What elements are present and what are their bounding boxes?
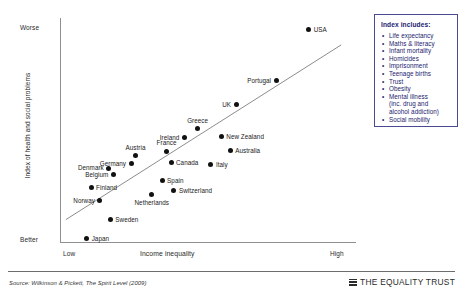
data-point — [306, 27, 311, 32]
x-tick-high: High — [330, 250, 344, 257]
bullet-icon: • — [382, 116, 384, 124]
legend-item: •Infant mortality — [381, 47, 452, 55]
bullet-icon: • — [382, 40, 384, 48]
y-tick-better: Better — [20, 236, 38, 243]
x-axis-title: Income inequality — [140, 250, 195, 257]
data-point — [234, 102, 239, 107]
legend-item: •Imprisonment — [381, 62, 452, 70]
brand-name: THE EQUALITY TRUST — [360, 277, 455, 287]
legend-item-label: Homicides — [389, 55, 419, 62]
data-point — [228, 148, 233, 153]
bullet-icon: • — [382, 85, 384, 93]
data-point-label: UK — [222, 101, 231, 108]
data-point-label: Belgium — [85, 171, 108, 178]
legend-item-label: Mental illness — [389, 93, 428, 100]
legend-title: Index includes: — [381, 21, 452, 28]
data-point — [274, 78, 279, 83]
equality-trust-logo: THE EQUALITY TRUST — [349, 277, 455, 287]
data-point-label: Canada — [176, 159, 198, 166]
bars-icon — [349, 279, 357, 286]
bullet-icon: • — [382, 32, 384, 40]
y-tick-worse: Worse — [20, 24, 39, 31]
data-point-label: USA — [314, 26, 327, 33]
source-citation: Source: Wilkinson & Pickett, The Spirit … — [9, 280, 146, 286]
legend-item: •Homicides — [381, 55, 452, 63]
data-point — [160, 178, 165, 183]
data-point-label: Finland — [96, 184, 117, 191]
data-point-label: France — [157, 139, 177, 146]
data-point-label: Italy — [216, 161, 228, 168]
data-point-label: Switzerland — [179, 187, 212, 194]
legend-item-label: Obesity — [389, 85, 411, 92]
legend-item: •Teenage births — [381, 70, 452, 78]
data-point — [164, 149, 169, 154]
trend-line — [60, 18, 356, 242]
plot-area: USAPortugalUKGreeceNew ZealandIrelandAus… — [60, 18, 356, 242]
data-point-label: Austria — [125, 144, 145, 151]
legend-item: •Obesity — [381, 85, 452, 93]
footer-divider — [8, 271, 455, 272]
legend-item-label: Maths & literacy — [389, 40, 435, 47]
legend-item-label: Social mobility — [389, 116, 430, 123]
bullet-icon: • — [382, 62, 384, 70]
data-point-label: Netherlands — [134, 199, 169, 206]
x-tick-low: Low — [63, 250, 75, 257]
legend-item-label: Life expectancy — [389, 32, 434, 39]
data-point-label: Spain — [167, 177, 183, 184]
legend-item-label: Teenage births — [389, 70, 431, 77]
bullet-icon: • — [382, 78, 384, 86]
legend-subline: alcohol addiction) — [381, 108, 452, 116]
legend-item-label: Trust — [389, 78, 403, 85]
data-point-label: Japan — [92, 235, 109, 242]
data-point-label: New Zealand — [226, 133, 264, 140]
data-point-label: Sweden — [115, 216, 138, 223]
data-point — [89, 185, 94, 190]
legend-item: •Mental illness — [381, 93, 452, 101]
x-axis-line — [60, 242, 356, 243]
data-point-label: Portugal — [247, 77, 271, 84]
data-point — [108, 217, 113, 222]
legend-item: •Maths & literacy — [381, 40, 452, 48]
legend-item-list: •Life expectancy•Maths & literacy•Infant… — [381, 32, 452, 123]
bullet-icon: • — [382, 47, 384, 55]
data-point — [106, 166, 111, 171]
scatter-chart: Worse Better Low High Index of health an… — [0, 0, 370, 268]
data-point-label: Australia — [235, 147, 260, 154]
data-point — [129, 161, 134, 166]
data-point — [169, 160, 174, 165]
bullet-icon: • — [382, 70, 384, 78]
data-point-label: Greece — [187, 117, 208, 124]
legend-item: •Social mobility — [381, 116, 452, 124]
legend-item-label: Imprisonment — [389, 62, 428, 69]
legend-subline: (inc. drug and — [381, 100, 452, 108]
bullet-icon: • — [382, 55, 384, 63]
bullet-icon: • — [382, 93, 384, 101]
legend-item-label: Infant mortality — [389, 47, 431, 54]
legend-index-includes: Index includes: •Life expectancy•Maths &… — [374, 14, 458, 127]
y-axis-title: Index of health and social problems — [24, 46, 31, 206]
data-point-label: Norway — [73, 197, 95, 204]
legend-item: •Trust — [381, 78, 452, 86]
chart-page: Worse Better Low High Index of health an… — [0, 0, 463, 305]
legend-item: •Life expectancy — [381, 32, 452, 40]
